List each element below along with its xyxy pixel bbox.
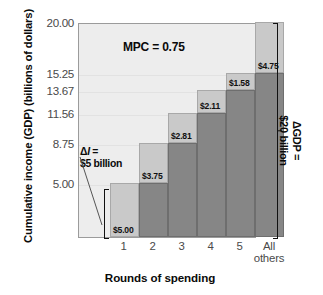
bar-increment-segment: $2.81 — [168, 113, 197, 143]
bar-round-5[interactable]: $1.58 — [226, 73, 255, 237]
x-tick-label-3: 3 — [167, 241, 196, 253]
bar-round-4[interactable]: $2.11 — [197, 90, 226, 237]
bracket-tip-bottom — [104, 238, 109, 239]
bar-increment-label: $1.58 — [229, 78, 250, 88]
bar-round-1[interactable]: $5.00 — [110, 183, 139, 237]
x-axis-tick-labels: 1 2 3 4 5 All others — [78, 241, 256, 271]
x-tick-line1: 1 — [109, 241, 138, 253]
x-tick-line2: others — [252, 253, 286, 265]
y-tick-label: 5.00 — [53, 177, 74, 190]
delta-gdp-line2: $20 billion — [278, 115, 290, 166]
bar-round-2[interactable]: $3.75 — [139, 143, 168, 237]
delta-gdp-line1: ΔGDP = — [291, 121, 303, 160]
bracket-spine — [104, 189, 105, 239]
bar-round-3[interactable]: $2.81 — [168, 113, 197, 237]
delta-investment-bracket — [101, 189, 108, 239]
bar-increment-segment: $3.75 — [139, 143, 168, 183]
x-tick-line1: 2 — [138, 241, 167, 253]
x-tick-label-4: 4 — [196, 241, 225, 253]
multiplier-effect-chart: Cumulative income (GDP) (billions of dol… — [0, 0, 323, 295]
y-tick-label: 15.25 — [46, 67, 74, 80]
bar-base-segment — [168, 143, 197, 237]
y-tick-label: 8.75 — [53, 137, 74, 150]
bar-increment-label: $2.81 — [171, 131, 192, 141]
x-tick-line1: 4 — [196, 241, 225, 253]
y-tick-label: 13.67 — [46, 84, 74, 97]
y-tick-label: 20.00 — [46, 16, 74, 29]
x-tick-line1: 3 — [167, 241, 196, 253]
bracket-tip-top — [273, 23, 278, 24]
x-tick-label-1: 1 — [109, 241, 138, 253]
y-axis-tick-labels: 20.00 15.25 13.67 11.56 8.75 5.00 — [0, 23, 74, 238]
y-tick-label: 11.56 — [47, 107, 74, 120]
bar-increment-label: $2.11 — [200, 101, 220, 111]
bar-increment-label: $3.75 — [142, 171, 163, 181]
bar-increment-segment: $2.11 — [197, 90, 226, 113]
x-tick-label-5: 5 — [225, 241, 254, 253]
x-axis-title: Rounds of spending — [60, 271, 260, 284]
delta-gdp-annotation: ΔGDP = $20 billion — [278, 51, 303, 231]
mpc-annotation: MPC = 0.75 — [123, 40, 185, 54]
x-tick-line1: All — [252, 241, 286, 253]
bracket-tip-bottom — [273, 238, 278, 239]
x-tick-label-all-others: All others — [252, 241, 286, 264]
x-tick-label-2: 2 — [138, 241, 167, 253]
x-tick-line1: 5 — [225, 241, 254, 253]
bar-base-segment — [226, 90, 255, 237]
bracket-tip-top — [104, 189, 109, 190]
bar-base-segment — [139, 183, 168, 237]
bar-increment-segment: $5.00 — [110, 183, 139, 237]
bar-increment-label: $5.00 — [113, 225, 134, 235]
bar-increment-segment: $1.58 — [226, 73, 255, 90]
bar-base-segment — [197, 113, 226, 237]
